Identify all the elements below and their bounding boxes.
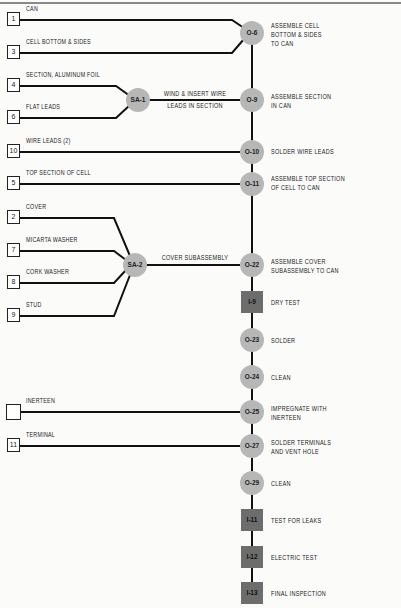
step-o-29: O-29 (240, 471, 264, 495)
step-i-12: I-12 (241, 546, 263, 568)
input-label-can: CAN (26, 5, 38, 12)
step-i-13: I-13 (241, 582, 263, 604)
input-box-3: 3 (7, 45, 20, 59)
step-o-11: O-11 (240, 172, 264, 196)
input-label-micarta-washer: MICARTA WASHER (26, 236, 78, 243)
step-o-23: O-23 (240, 328, 264, 352)
input-box-1: 1 (7, 12, 20, 26)
input-label-inerteen: INERTEEN (26, 397, 55, 404)
input-box-blank (6, 404, 21, 420)
input-label-cork-washer: CORK WASHER (26, 268, 69, 275)
input-box-5: 5 (7, 176, 20, 190)
input-box-9: 9 (7, 308, 20, 322)
input-label-terminal: TERMINAL (26, 431, 55, 438)
step-o-25-label: IMPREGNATE WITH INERTEEN (271, 404, 327, 422)
step-o-9: O-9 (240, 88, 264, 112)
step-i-9: I-9 (241, 291, 263, 313)
step-o-6-label: ASSEMBLE CELL BOTTOM & SIDES TO CAN (271, 21, 322, 48)
input-box-10: 10 (7, 144, 20, 158)
input-label-cover: COVER (26, 203, 46, 210)
step-o-23-label: SOLDER (271, 336, 295, 345)
step-i-11: I-11 (241, 509, 263, 531)
step-o-24-label: CLEAN (271, 373, 291, 382)
step-o-29-label: CLEAN (271, 479, 291, 488)
step-i-12-label: ELECTRIC TEST (271, 553, 317, 562)
input-box-6: 6 (7, 110, 20, 124)
step-o-27: O-27 (240, 434, 264, 458)
step-i-11-label: TEST FOR LEAKS (271, 516, 321, 525)
input-box-4: 4 (7, 78, 20, 92)
step-o-27-label: SOLDER TERMINALS AND VENT HOLE (271, 438, 331, 456)
step-o-22: O-22 (240, 253, 264, 277)
input-box-7: 7 (7, 243, 20, 257)
input-box-2: 2 (7, 210, 20, 224)
input-box-8: 8 (7, 275, 20, 289)
input-label-cell-bottom: CELL BOTTOM & SIDES (26, 38, 91, 45)
step-o-6: O-6 (240, 21, 264, 45)
subassembly-sa-2-label: COVER SUBASSEMBLY (155, 252, 234, 264)
input-box-11: 11 (7, 438, 20, 452)
step-o-24: O-24 (240, 365, 264, 389)
subassembly-sa-1: SA-1 (126, 88, 150, 112)
step-o-9-label: ASSEMBLE SECTION IN CAN (271, 92, 331, 110)
input-label-section-foil: SECTION, ALUMINUM FOIL (26, 71, 100, 78)
input-label-flat-leads: FLAT LEADS (26, 103, 60, 110)
step-i-13-label: FINAL INSPECTION (271, 589, 326, 598)
subassembly-sa-2: SA-2 (123, 253, 147, 277)
subassembly-sa-1-label: WIND & INSERT WIRE LEADS IN SECTION (155, 88, 234, 112)
step-o-10-label: SOLDER WIRE LEADS (271, 147, 334, 156)
step-o-25: O-25 (240, 400, 264, 424)
input-label-top-section: TOP SECTION OF CELL (26, 169, 91, 176)
input-label-stud: STUD (26, 301, 42, 308)
step-o-22-label: ASSEMBLE COVER SUBASSEMBLY TO CAN (271, 257, 339, 275)
step-o-10: O-10 (240, 140, 264, 164)
input-label-wire-leads: WIRE LEADS (2) (26, 137, 71, 144)
step-o-11-label: ASSEMBLE TOP SECTION OF CELL TO CAN (271, 174, 345, 192)
step-i-9-label: DRY TEST (271, 298, 300, 307)
